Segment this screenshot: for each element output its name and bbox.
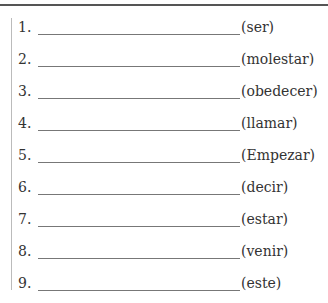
exercise-item: 1. (ser)	[0, 18, 328, 50]
top-rule	[0, 4, 328, 6]
verb-hint: (molestar)	[241, 50, 314, 68]
answer-blank[interactable]	[38, 34, 240, 35]
answer-blank[interactable]	[38, 66, 240, 67]
verb-hint: (llamar)	[241, 114, 298, 132]
verb-hint: (obedecer)	[241, 82, 318, 100]
exercise-item: 2. (molestar)	[0, 50, 328, 82]
verb-hint: (Empezar)	[241, 146, 315, 164]
exercise-item: 5. (Empezar)	[0, 146, 328, 178]
verb-hint: (ser)	[241, 18, 274, 36]
item-number: 3.	[18, 82, 31, 100]
answer-blank[interactable]	[38, 258, 240, 259]
exercise-item: 8. (venir)	[0, 242, 328, 274]
verb-hint: (este)	[241, 274, 281, 292]
item-number: 9.	[18, 274, 31, 292]
exercise-item: 6. (decir)	[0, 178, 328, 210]
exercise-item: 3. (obedecer)	[0, 82, 328, 114]
verb-hint: (estar)	[241, 210, 288, 228]
item-number: 4.	[18, 114, 31, 132]
verb-hint: (venir)	[241, 242, 288, 260]
answer-blank[interactable]	[38, 162, 240, 163]
exercise-item: 9. (este)	[0, 274, 328, 303]
answer-blank[interactable]	[38, 226, 240, 227]
item-number: 2.	[18, 50, 31, 68]
exercise-item: 7. (estar)	[0, 210, 328, 242]
item-number: 7.	[18, 210, 31, 228]
answer-blank[interactable]	[38, 290, 240, 291]
answer-blank[interactable]	[38, 194, 240, 195]
answer-blank[interactable]	[38, 130, 240, 131]
item-number: 6.	[18, 178, 31, 196]
verb-hint: (decir)	[241, 178, 288, 196]
item-number: 5.	[18, 146, 31, 164]
answer-blank[interactable]	[38, 98, 240, 99]
exercise-item: 4. (llamar)	[0, 114, 328, 146]
item-number: 1.	[18, 18, 31, 36]
item-number: 8.	[18, 242, 31, 260]
